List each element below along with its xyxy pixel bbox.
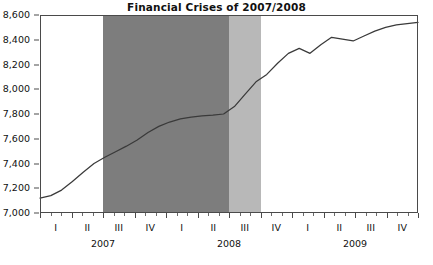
x-tick-major bbox=[40, 213, 41, 218]
x-quarter-label: III bbox=[241, 222, 249, 233]
x-tick-major bbox=[198, 213, 199, 218]
x-tick-minor bbox=[376, 213, 377, 216]
x-tick-minor bbox=[156, 213, 157, 216]
x-tick-minor bbox=[51, 213, 52, 216]
x-tick-minor bbox=[82, 213, 83, 216]
y-tick-label: 7,200 bbox=[3, 183, 30, 193]
y-tick-label: 7,800 bbox=[3, 109, 30, 119]
x-tick-major bbox=[261, 213, 262, 218]
y-tick-mark bbox=[34, 188, 39, 189]
y-tick-mark bbox=[34, 89, 39, 90]
x-tick-major bbox=[135, 213, 136, 218]
x-tick-minor bbox=[240, 213, 241, 216]
y-tick-label: 8,000 bbox=[3, 84, 30, 94]
y-tick-mark bbox=[34, 15, 39, 16]
x-year-label: 2007 bbox=[91, 238, 115, 249]
x-tick-major bbox=[292, 213, 293, 218]
x-tick-major bbox=[72, 213, 73, 218]
x-tick-minor bbox=[313, 213, 314, 216]
x-tick-minor bbox=[345, 213, 346, 216]
y-tick-mark bbox=[34, 163, 39, 164]
x-tick-major bbox=[387, 213, 388, 218]
x-tick-major bbox=[103, 213, 104, 218]
y-axis: 7,0007,2007,4007,6007,8008,0008,2008,400… bbox=[0, 0, 36, 265]
x-quarter-label: II bbox=[210, 222, 216, 233]
x-quarter-label: I bbox=[54, 222, 57, 233]
x-tick-minor bbox=[282, 213, 283, 216]
chart-container: Financial Crises of 2007/2008 7,0007,200… bbox=[0, 0, 433, 265]
x-quarter-label: II bbox=[336, 222, 342, 233]
x-tick-minor bbox=[366, 213, 367, 216]
y-tick-mark bbox=[34, 64, 39, 65]
y-tick-label: 8,200 bbox=[3, 60, 30, 70]
x-tick-major bbox=[166, 213, 167, 218]
x-quarter-label: IV bbox=[146, 222, 155, 233]
x-tick-minor bbox=[303, 213, 304, 216]
x-tick-minor bbox=[271, 213, 272, 216]
x-tick-major bbox=[229, 213, 230, 218]
y-tick-mark bbox=[34, 213, 39, 214]
x-tick-minor bbox=[61, 213, 62, 216]
x-tick-minor bbox=[334, 213, 335, 216]
y-tick-label: 7,400 bbox=[3, 159, 30, 169]
x-quarter-label: III bbox=[367, 222, 375, 233]
x-tick-minor bbox=[114, 213, 115, 216]
y-tick-mark bbox=[34, 114, 39, 115]
y-tick-label: 8,600 bbox=[3, 10, 30, 20]
x-quarter-label: I bbox=[306, 222, 309, 233]
x-tick-minor bbox=[250, 213, 251, 216]
y-tick-label: 7,600 bbox=[3, 134, 30, 144]
plot-area bbox=[40, 15, 418, 213]
x-year-label: 2008 bbox=[217, 238, 241, 249]
x-tick-major bbox=[324, 213, 325, 218]
y-tick-mark bbox=[34, 39, 39, 40]
x-quarter-label: III bbox=[115, 222, 123, 233]
y-tick-mark bbox=[34, 138, 39, 139]
x-tick-minor bbox=[397, 213, 398, 216]
x-tick-major bbox=[355, 213, 356, 218]
x-tick-minor bbox=[177, 213, 178, 216]
x-tick-minor bbox=[408, 213, 409, 216]
x-tick-minor bbox=[145, 213, 146, 216]
data-series-line bbox=[40, 15, 418, 213]
x-quarter-label: I bbox=[180, 222, 183, 233]
y-tick-label: 7,000 bbox=[3, 208, 30, 218]
x-quarter-label: IV bbox=[398, 222, 407, 233]
x-quarter-label: IV bbox=[272, 222, 281, 233]
x-tick-major bbox=[418, 213, 419, 218]
x-tick-minor bbox=[93, 213, 94, 216]
x-quarter-label: II bbox=[84, 222, 90, 233]
x-tick-minor bbox=[124, 213, 125, 216]
x-year-label: 2009 bbox=[343, 238, 367, 249]
chart-title: Financial Crises of 2007/2008 bbox=[0, 0, 433, 14]
x-tick-minor bbox=[208, 213, 209, 216]
y-tick-label: 8,400 bbox=[3, 35, 30, 45]
x-tick-minor bbox=[219, 213, 220, 216]
x-tick-minor bbox=[187, 213, 188, 216]
